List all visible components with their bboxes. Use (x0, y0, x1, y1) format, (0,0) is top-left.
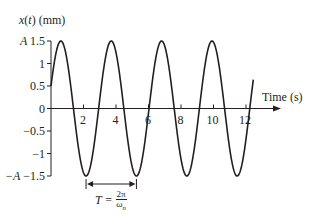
y-tick-label: A 1.5 (20, 35, 45, 47)
chart-canvas (0, 0, 315, 216)
y-tick-label: −0.5 (23, 125, 45, 137)
x-tick-label: 10 (207, 114, 219, 126)
y-axis-label-t: t (28, 13, 31, 27)
tick-value: 1.5 (30, 34, 45, 48)
omega-subscript: n (123, 204, 127, 212)
period-arrow (86, 179, 136, 189)
x-tick-label: 12 (239, 114, 251, 126)
period-denominator: ωn (116, 200, 127, 212)
axes (47, 41, 280, 176)
y-axis-label-x: x (19, 13, 24, 27)
amplitude-symbol: A (20, 34, 30, 48)
y-axis-label-unit: (mm) (36, 13, 66, 27)
y-tick-label: −A −1.5 (5, 170, 45, 182)
x-axis-label: Time (s) (262, 91, 303, 103)
amplitude-symbol: −A (5, 169, 23, 183)
y-tick-label: 0 (39, 103, 45, 115)
x-tick-label: 2 (80, 114, 86, 126)
y-axis-label: x(t) (mm) (19, 14, 65, 26)
y-tick-label: 0.5 (30, 80, 45, 92)
tick-value: −1.5 (23, 169, 45, 183)
y-tick-label: −1 (32, 148, 45, 160)
x-tick-label: 4 (113, 114, 119, 126)
period-formula: T = 2π ωn (95, 190, 127, 213)
period-fraction: 2π ωn (116, 190, 127, 213)
x-tick-label: 6 (145, 114, 151, 126)
x-tick-label: 8 (178, 114, 184, 126)
period-T: T = (95, 193, 113, 207)
y-tick-label: 1 (39, 58, 45, 70)
